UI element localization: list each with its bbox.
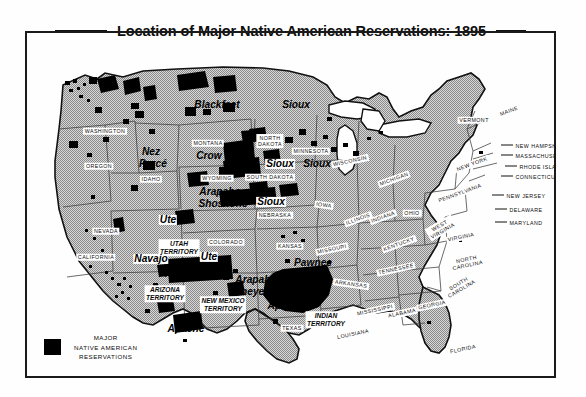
map-screenshot: Location of Major Native American Reserv… — [0, 0, 586, 397]
legend-line-1: MAJOR — [74, 333, 137, 343]
callout-leader-line — [495, 209, 507, 210]
legend-line-2: NATIVE AMERICAN — [74, 343, 137, 353]
lake-michigan — [337, 125, 357, 175]
map-canvas: WASHINGTONOREGONIDAHOMONTANAWYOMINGNEVAD… — [27, 33, 554, 376]
legend-swatch-reservation — [44, 339, 61, 355]
legend-text: MAJOR NATIVE AMERICAN RESERVATIONS — [74, 333, 137, 362]
callout-leader-line — [495, 222, 507, 223]
callout-leader-line — [492, 195, 504, 196]
callout-leader-line — [501, 145, 513, 146]
callout-leader-line — [501, 176, 513, 177]
callout-leader-line — [505, 166, 517, 167]
florida-peninsula — [419, 287, 451, 353]
map-legend: MAJOR NATIVE AMERICAN RESERVATIONS — [44, 333, 137, 362]
legend-line-3: RESERVATIONS — [74, 352, 137, 362]
usa-map-svg — [27, 33, 554, 376]
callout-leader-line — [501, 155, 513, 156]
